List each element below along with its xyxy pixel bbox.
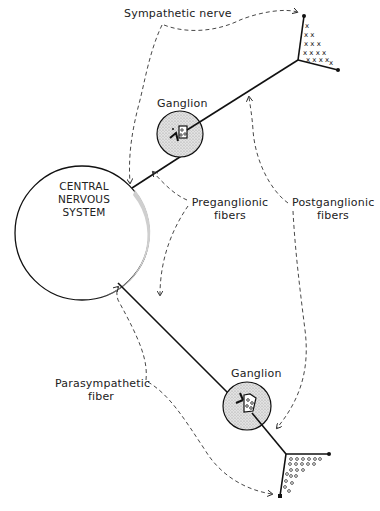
sympathetic-terminal: x x x x x x x x x x x x x x x — [298, 14, 340, 72]
label-parasympathetic-line1: Parasympathetic — [55, 377, 147, 390]
label-parasympathetic-line2: fiber — [55, 390, 147, 403]
label-postganglionic-fibers: Postganglionic fibers — [292, 196, 374, 222]
svg-text:x x x: x x x — [304, 40, 321, 48]
label-cns-line2: NERVOUS — [52, 193, 116, 206]
svg-text:x x x x: x x x x — [306, 56, 329, 64]
diagram-canvas: x x x x x x x x x x x x x x x — [0, 0, 380, 511]
label-cns-line1: CENTRAL — [52, 180, 116, 193]
label-ganglion-bottom: Ganglion — [231, 367, 282, 380]
label-sympathetic-nerve: Sympathetic nerve — [124, 7, 232, 20]
svg-text:x x: x x — [304, 31, 315, 39]
label-parasympathetic-fiber: Parasympathetic fiber — [55, 377, 147, 403]
label-ganglion-top: Ganglion — [157, 97, 208, 110]
sympathetic-postganglionic-fiber — [187, 60, 298, 130]
svg-text:x: x — [329, 59, 333, 67]
x-marks: x x x x x x x x x x x x x x x — [303, 22, 333, 67]
parasympathetic-postganglionic-fiber — [252, 413, 286, 454]
svg-text:x: x — [305, 22, 309, 30]
label-postganglionic-line2: fibers — [292, 209, 374, 222]
label-cns: CENTRAL NERVOUS SYSTEM — [52, 180, 116, 219]
sympathetic-preganglionic-fiber — [132, 155, 183, 188]
label-preganglionic-line1: Preganglionic — [190, 196, 270, 209]
o-marks — [284, 458, 322, 493]
label-preganglionic-line2: fibers — [190, 209, 270, 222]
label-preganglionic-fibers: Preganglionic fibers — [190, 196, 270, 222]
label-cns-line3: SYSTEM — [52, 206, 116, 219]
parasympathetic-terminal — [278, 452, 331, 498]
label-postganglionic-line1: Postganglionic — [292, 196, 374, 209]
